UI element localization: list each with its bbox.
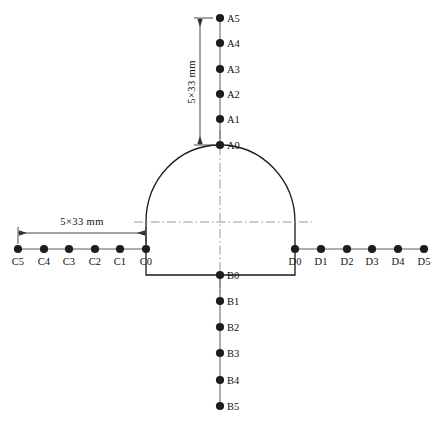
point-label-a0: A0 xyxy=(227,140,240,151)
array-connector-lines xyxy=(18,18,424,406)
point-label-a1: A1 xyxy=(227,114,240,125)
point-marker-d5 xyxy=(420,245,428,253)
point-marker-d2 xyxy=(343,245,351,253)
vertical-dimension-group: 5×33 mm xyxy=(186,18,213,145)
point-marker-d4 xyxy=(394,245,402,253)
point-label-b0: B0 xyxy=(227,270,239,281)
point-label-a2: A2 xyxy=(227,89,240,100)
point-array-c: C0C1C2C3C4C5 xyxy=(12,245,152,267)
horizontal-dimension-label: 5×33 mm xyxy=(60,216,103,227)
point-marker-c4 xyxy=(40,245,48,253)
point-marker-a5 xyxy=(216,14,224,22)
vertical-dimension-arrow-top xyxy=(197,19,202,27)
point-label-c1: C1 xyxy=(114,256,126,267)
point-marker-c2 xyxy=(91,245,99,253)
point-marker-a1 xyxy=(216,115,224,123)
measurement-point-b2[interactable]: B2 xyxy=(216,322,239,333)
point-marker-b1 xyxy=(216,297,224,305)
measurement-point-a3[interactable]: A3 xyxy=(216,64,240,75)
point-marker-b0 xyxy=(216,271,224,279)
point-label-d3: D3 xyxy=(366,256,379,267)
point-marker-a3 xyxy=(216,65,224,73)
point-label-a3: A3 xyxy=(227,64,240,75)
point-marker-c0 xyxy=(142,245,150,253)
measurement-point-c4[interactable]: C4 xyxy=(38,245,51,267)
point-label-c5: C5 xyxy=(12,256,24,267)
measurement-point-b1[interactable]: B1 xyxy=(216,296,239,307)
measurement-point-c3[interactable]: C3 xyxy=(63,245,75,267)
point-label-d1: D1 xyxy=(315,256,328,267)
measurement-point-c5[interactable]: C5 xyxy=(12,245,24,267)
measurement-point-d3[interactable]: D3 xyxy=(366,245,379,267)
tunnel-cross-section-outline xyxy=(146,145,295,275)
measurement-point-b0[interactable]: B0 xyxy=(216,270,239,281)
point-label-c3: C3 xyxy=(63,256,75,267)
measurement-point-a2[interactable]: A2 xyxy=(216,89,240,100)
point-marker-b3 xyxy=(216,349,224,357)
measurement-point-d5[interactable]: D5 xyxy=(418,245,431,267)
measurement-point-d4[interactable]: D4 xyxy=(392,245,406,267)
measurement-points-layer: A0A1A2A3A4A5B0B1B2B3B4B5C0C1C2C3C4C5D0D1… xyxy=(12,13,431,412)
measurement-point-b5[interactable]: B5 xyxy=(216,401,239,412)
point-marker-d0 xyxy=(291,245,299,253)
point-marker-a4 xyxy=(216,39,224,47)
point-marker-c1 xyxy=(116,245,124,253)
horizontal-dimension-arrow-left xyxy=(19,230,27,235)
point-label-d0: D0 xyxy=(289,256,302,267)
diagram-canvas: 5×33 mm 5×33 mm A0A1A2A3A4A5B0B1B2B3B4B5… xyxy=(0,0,442,423)
horizontal-dimension-group: 5×33 mm xyxy=(18,216,146,244)
point-label-b2: B2 xyxy=(227,322,239,333)
centerlines-group xyxy=(134,130,312,292)
measurement-point-a0[interactable]: A0 xyxy=(216,140,240,151)
point-label-d2: D2 xyxy=(341,256,354,267)
measurement-point-d2[interactable]: D2 xyxy=(341,245,354,267)
measurement-point-d0[interactable]: D0 xyxy=(289,245,302,267)
horizontal-dimension-arrow-right xyxy=(137,230,145,235)
point-label-b1: B1 xyxy=(227,296,239,307)
measurement-point-b4[interactable]: B4 xyxy=(216,375,240,386)
measurement-point-c0[interactable]: C0 xyxy=(140,245,152,267)
point-marker-b5 xyxy=(216,402,224,410)
point-label-c4: C4 xyxy=(38,256,51,267)
point-label-d5: D5 xyxy=(418,256,431,267)
point-marker-c3 xyxy=(65,245,73,253)
point-marker-d3 xyxy=(368,245,376,253)
point-marker-a0 xyxy=(216,141,224,149)
point-array-d: D0D1D2D3D4D5 xyxy=(289,245,431,267)
vertical-dimension-arrow-bottom xyxy=(197,136,202,144)
measurement-point-a1[interactable]: A1 xyxy=(216,114,240,125)
measurement-point-d1[interactable]: D1 xyxy=(315,245,328,267)
measurement-point-a4[interactable]: A4 xyxy=(216,38,241,49)
point-marker-b2 xyxy=(216,323,224,331)
point-marker-a2 xyxy=(216,90,224,98)
point-label-b4: B4 xyxy=(227,375,240,386)
point-label-a5: A5 xyxy=(227,13,240,24)
point-marker-d1 xyxy=(317,245,325,253)
point-label-a4: A4 xyxy=(227,38,241,49)
measurement-point-c1[interactable]: C1 xyxy=(114,245,126,267)
point-label-c2: C2 xyxy=(89,256,101,267)
point-label-b5: B5 xyxy=(227,401,239,412)
vertical-dimension-label: 5×33 mm xyxy=(186,60,197,103)
point-label-b3: B3 xyxy=(227,348,239,359)
tunnel-layout-figure: 5×33 mm 5×33 mm A0A1A2A3A4A5B0B1B2B3B4B5… xyxy=(0,0,442,423)
measurement-point-b3[interactable]: B3 xyxy=(216,348,239,359)
measurement-point-c2[interactable]: C2 xyxy=(89,245,101,267)
point-label-d4: D4 xyxy=(392,256,406,267)
measurement-point-a5[interactable]: A5 xyxy=(216,13,240,24)
tunnel-outline-group xyxy=(146,145,295,275)
point-label-c0: C0 xyxy=(140,256,152,267)
point-marker-c5 xyxy=(14,245,22,253)
point-marker-b4 xyxy=(216,376,224,384)
